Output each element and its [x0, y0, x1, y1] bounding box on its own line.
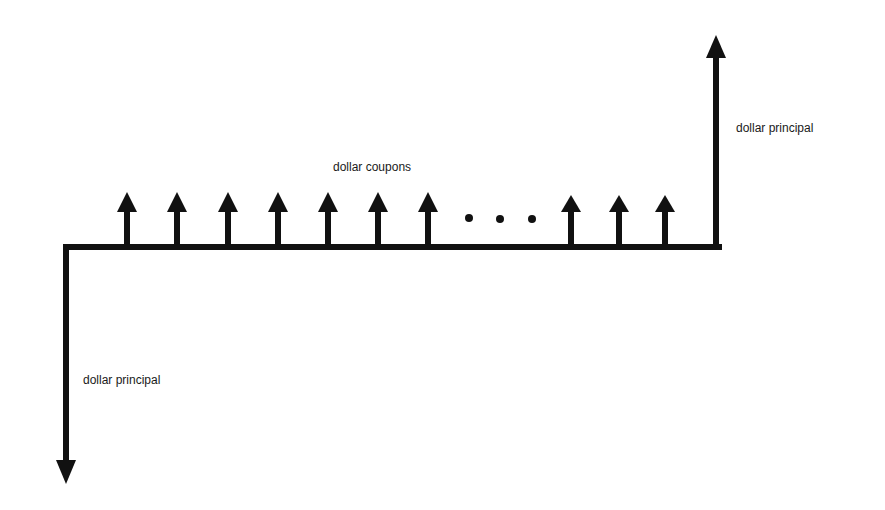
coupons-label: dollar coupons [333, 160, 411, 174]
coupon-arrow-icon [368, 192, 388, 247]
coupon-arrow-icon [655, 195, 675, 247]
coupon-arrow-icon [561, 195, 581, 247]
principal-outflow-label: dollar principal [83, 373, 160, 387]
principal-inflow-shaft [713, 56, 719, 250]
coupon-arrow-icon [418, 192, 438, 247]
principal-inflow-arrowhead-icon [706, 35, 726, 58]
coupon-arrow-icon [167, 192, 187, 247]
principal-outflow-arrowhead-icon [56, 460, 76, 484]
principal-outflow-shaft [63, 244, 69, 462]
time-axis [63, 244, 722, 250]
coupon-arrow-icon [218, 192, 238, 247]
ellipsis-icon [465, 214, 536, 223]
coupon-arrows [117, 192, 675, 247]
coupon-arrow-icon [609, 195, 629, 247]
coupon-arrow-icon [268, 192, 288, 247]
cash-flow-diagram [0, 0, 885, 510]
principal-inflow-label: dollar principal [736, 121, 813, 135]
coupon-arrow-icon [117, 192, 137, 247]
coupon-arrow-icon [318, 192, 338, 247]
